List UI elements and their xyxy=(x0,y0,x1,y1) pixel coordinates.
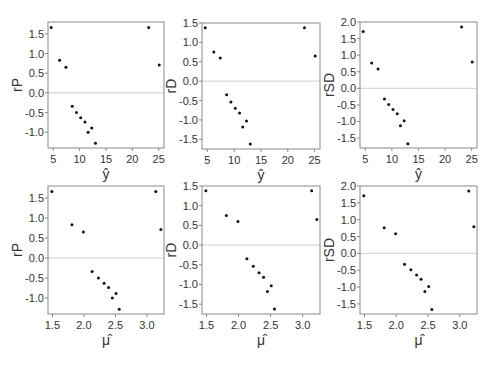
data-point xyxy=(229,101,232,104)
data-point xyxy=(315,218,318,221)
data-point xyxy=(204,26,207,29)
data-point xyxy=(50,190,53,193)
y-tick-label: 2.0 xyxy=(341,180,356,192)
x-axis-label: μ̂ xyxy=(102,332,113,348)
data-point xyxy=(236,220,239,223)
data-point xyxy=(204,189,207,192)
y-tick-label: -1.0 xyxy=(179,114,198,126)
y-tick-label: -0.5 xyxy=(179,259,198,271)
data-points xyxy=(50,26,161,145)
x-tick-label: 15 xyxy=(412,153,424,165)
y-tick-label: 0.0 xyxy=(183,239,198,251)
y-tick-label: -0.5 xyxy=(25,272,44,284)
x-tick-label: 20 xyxy=(439,153,451,165)
y-tick-label: 1.5 xyxy=(183,180,198,192)
y-axis-label: rSD xyxy=(321,238,337,262)
data-points xyxy=(362,25,474,145)
x-tick-label: 2.5 xyxy=(263,319,278,331)
scatter-panel-bottom-left: -1.0-0.50.00.51.01.51.52.02.53.0μ̂rP xyxy=(9,186,164,348)
y-tick-label: -0.5 xyxy=(337,99,356,111)
data-point xyxy=(249,142,252,145)
y-axis: -1.5-1.0-0.50.00.51.01.52.0 xyxy=(337,16,360,144)
x-tick-label: 10 xyxy=(228,154,240,166)
data-point xyxy=(71,105,74,108)
scatter-panel-top-right: -1.5-1.0-0.50.00.51.01.52.0510152025ŷrSD xyxy=(321,16,478,182)
data-point xyxy=(362,30,365,33)
y-tick-label: 0.5 xyxy=(29,232,44,244)
y-tick-label: 1.0 xyxy=(341,214,356,226)
x-axis-label: μ̂ xyxy=(414,332,425,348)
y-axis: -1.0-0.50.00.51.01.5 xyxy=(25,192,48,304)
data-point xyxy=(158,63,161,66)
y-tick-label: 0.0 xyxy=(341,247,356,259)
x-tick-label: 1.5 xyxy=(357,319,372,331)
y-tick-label: -1.5 xyxy=(337,132,356,144)
x-axis: 1.52.02.53.0 xyxy=(199,314,310,331)
x-axis: 510152025 xyxy=(362,148,478,165)
x-tick-label: 2.5 xyxy=(420,319,435,331)
data-point xyxy=(103,282,106,285)
scatter-panel-top-middle: -1.5-1.0-0.50.00.51.01.5510152025ŷrD xyxy=(163,17,321,183)
data-point xyxy=(212,51,215,54)
y-tick-label: 0.5 xyxy=(183,219,198,231)
data-point xyxy=(266,290,269,293)
data-point xyxy=(82,231,85,234)
x-axis: 510152025 xyxy=(50,148,165,165)
data-point xyxy=(403,263,406,266)
y-axis-label: rD xyxy=(163,79,179,94)
y-axis: -1.5-1.0-0.50.00.51.01.52.0 xyxy=(337,180,360,310)
y-axis: -1.5-1.0-0.50.00.51.01.5 xyxy=(179,180,202,310)
data-point xyxy=(75,111,78,114)
y-tick-label: 0.0 xyxy=(183,75,198,87)
data-point xyxy=(147,26,150,29)
y-tick-label: 0.0 xyxy=(29,252,44,264)
y-tick-label: -0.5 xyxy=(337,264,356,276)
y-tick-label: 0.5 xyxy=(341,231,356,243)
data-point xyxy=(238,111,241,114)
scatter-panel-bottom-middle: -1.5-1.0-0.50.00.51.01.51.52.02.53.0μ̂rD xyxy=(163,180,320,348)
scatter-panel-bottom-right: -1.5-1.0-0.50.00.51.01.52.01.52.02.53.0μ… xyxy=(321,180,477,348)
data-point xyxy=(154,190,157,193)
y-tick-label: 1.5 xyxy=(341,197,356,209)
data-point xyxy=(420,278,423,281)
data-point xyxy=(399,124,402,127)
x-axis: 1.52.02.53.0 xyxy=(357,314,468,331)
data-point xyxy=(58,59,61,62)
x-tick-label: 3.0 xyxy=(452,319,467,331)
x-axis-label: ŷ xyxy=(103,166,110,182)
x-tick-label: 3.0 xyxy=(295,319,310,331)
x-tick-label: 2.0 xyxy=(389,319,404,331)
x-tick-label: 20 xyxy=(126,153,138,165)
y-tick-label: -1.0 xyxy=(337,115,356,127)
y-tick-label: -1.0 xyxy=(179,278,198,290)
data-point xyxy=(430,308,433,311)
y-axis-label: rSD xyxy=(321,73,337,97)
data-point xyxy=(460,25,463,28)
x-axis: 1.52.02.53.0 xyxy=(45,314,155,331)
plot-frame xyxy=(48,22,164,148)
x-tick-label: 1.5 xyxy=(45,319,60,331)
x-tick-label: 10 xyxy=(386,153,398,165)
data-point xyxy=(79,116,82,119)
x-tick-label: 20 xyxy=(282,154,294,166)
data-point xyxy=(303,26,306,29)
x-axis-label: ŷ xyxy=(415,166,422,182)
data-point xyxy=(91,270,94,273)
data-point xyxy=(87,131,90,134)
data-point xyxy=(245,257,248,260)
x-tick-label: 25 xyxy=(153,153,165,165)
y-axis: -1.0-0.50.00.51.01.5 xyxy=(25,28,48,138)
data-point xyxy=(273,307,276,310)
data-point xyxy=(70,223,73,226)
x-axis: 510152025 xyxy=(204,149,320,166)
data-point xyxy=(370,62,373,65)
data-point xyxy=(115,292,118,295)
plot-frame xyxy=(202,23,320,149)
x-tick-label: 2.5 xyxy=(108,319,123,331)
y-tick-label: 1.0 xyxy=(183,200,198,212)
y-tick-label: 1.5 xyxy=(341,33,356,45)
y-tick-label: 1.0 xyxy=(29,212,44,224)
data-point xyxy=(94,142,97,145)
plot-frame xyxy=(202,186,320,314)
data-point xyxy=(219,56,222,59)
